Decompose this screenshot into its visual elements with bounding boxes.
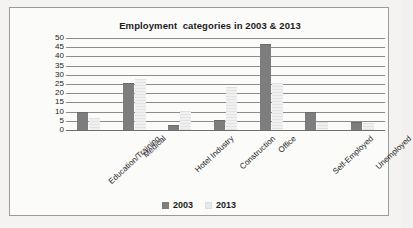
y-axis: 50454035302520151050: [38, 32, 64, 136]
bar-2003: [260, 44, 271, 130]
bar-2003: [305, 112, 316, 130]
bar-2013: [89, 118, 100, 130]
y-axis-tick-label: 25: [38, 80, 64, 88]
bar-2003: [77, 112, 88, 130]
gridline: [66, 130, 385, 131]
bar-2013: [363, 123, 374, 130]
bar-group: [248, 38, 294, 130]
bar-group: [157, 38, 203, 130]
legend-item-2003[interactable]: 2003: [162, 200, 193, 210]
legend-swatch-icon: [162, 202, 169, 209]
bar-group: [294, 38, 340, 130]
bar-group: [339, 38, 385, 130]
x-axis-labels: Education/TrainingMedicalHotel IndustryC…: [50, 134, 400, 196]
y-axis-tick-label: 20: [38, 89, 64, 97]
plot-area: [66, 38, 385, 130]
bar-group: [112, 38, 158, 130]
bars-container: [66, 38, 385, 130]
y-axis-tick-label: 15: [38, 98, 64, 106]
y-axis-tick-label: 45: [38, 43, 64, 51]
chart-frame: Employment categories in 2003 & 2013 504…: [9, 7, 389, 216]
y-axis-tick-label: 0: [38, 126, 64, 134]
bar-2013: [135, 79, 146, 130]
y-axis-tick-label: 30: [38, 71, 64, 79]
bar-2013: [180, 111, 191, 130]
y-axis-tick-label: 35: [38, 62, 64, 70]
legend-swatch-icon: [205, 202, 212, 209]
x-axis-label: Construction: [238, 134, 277, 171]
chart-legend: 20032013: [10, 200, 388, 210]
bar-2003: [351, 122, 362, 130]
chart-title: Employment categories in 2003 & 2013: [80, 20, 340, 31]
legend-item-2013[interactable]: 2013: [205, 200, 236, 210]
bar-2013: [226, 87, 237, 130]
x-axis-label: Hotel Industry: [193, 134, 235, 174]
bar-2013: [272, 83, 283, 130]
y-axis-tick-label: 5: [38, 117, 64, 125]
x-axis-label: Office: [277, 134, 298, 155]
y-axis-tick-label: 40: [38, 52, 64, 60]
x-axis-label: Self-Employed: [331, 134, 375, 176]
bar-group: [203, 38, 249, 130]
bar-2003: [214, 120, 225, 130]
bar-group: [66, 38, 112, 130]
bar-2003: [168, 125, 179, 130]
legend-label: 2003: [173, 200, 193, 210]
legend-label: 2013: [216, 200, 236, 210]
bar-2013: [317, 122, 328, 130]
bar-2003: [123, 83, 134, 130]
x-axis-label: Unemployed: [374, 134, 413, 171]
y-axis-tick-label: 50: [38, 34, 64, 42]
y-axis-tick-label: 10: [38, 108, 64, 116]
